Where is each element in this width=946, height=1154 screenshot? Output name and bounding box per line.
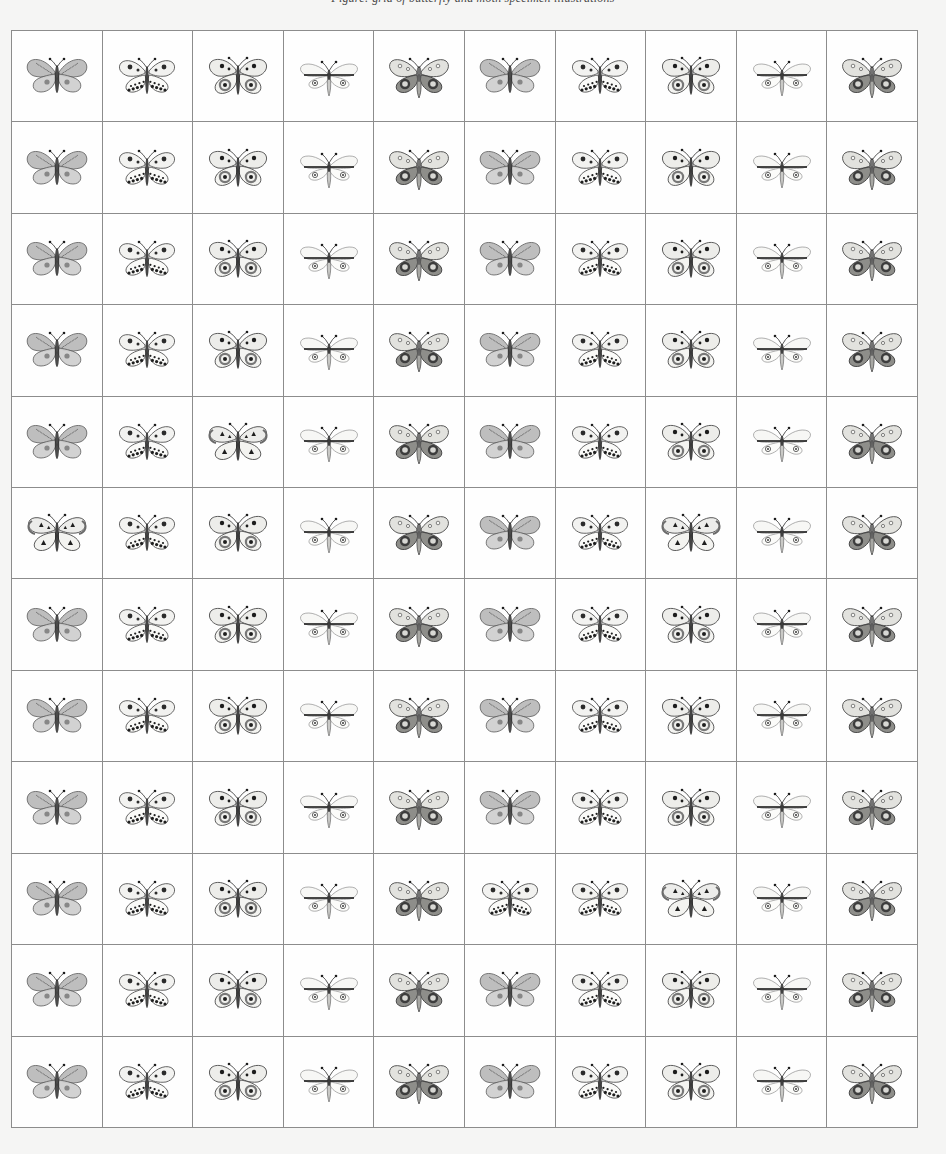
grey-banded-butterfly-icon	[20, 686, 94, 746]
specimen-cell	[193, 854, 284, 945]
pale-narrow-winged-moth-icon	[745, 595, 819, 655]
specimen-cell	[827, 1037, 918, 1128]
pale-narrow-winged-moth-icon	[745, 1052, 819, 1112]
pale-narrow-winged-moth-icon	[292, 1052, 366, 1112]
specimen-cell	[12, 671, 103, 762]
specimen-cell	[737, 762, 828, 853]
white-spotted-butterfly-icon	[110, 46, 184, 106]
ocellated-butterfly-icon	[654, 412, 728, 472]
grey-banded-butterfly-icon	[473, 229, 547, 289]
white-spotted-butterfly-icon	[110, 503, 184, 563]
specimen-cell	[556, 31, 647, 122]
specimen-cell	[103, 122, 194, 213]
white-spotted-butterfly-icon	[110, 320, 184, 380]
grey-banded-butterfly-icon	[20, 960, 94, 1020]
specimen-cell	[12, 854, 103, 945]
ocellated-butterfly-icon	[201, 686, 275, 746]
specimen-cell	[465, 122, 556, 213]
pale-narrow-winged-moth-icon	[745, 138, 819, 198]
specimen-cell	[465, 305, 556, 396]
specimen-cell	[556, 671, 647, 762]
specimen-cell	[646, 214, 737, 305]
ocellated-butterfly-icon	[201, 1052, 275, 1112]
pale-narrow-winged-moth-icon	[292, 46, 366, 106]
specimen-cell	[556, 579, 647, 670]
specimen-cell	[12, 945, 103, 1036]
grey-banded-butterfly-icon	[20, 412, 94, 472]
specimen-cell	[193, 1037, 284, 1128]
white-spotted-butterfly-icon	[563, 229, 637, 289]
specimen-cell	[12, 579, 103, 670]
specimen-cell	[465, 945, 556, 1036]
specimen-cell	[374, 214, 465, 305]
white-spotted-butterfly-icon	[110, 412, 184, 472]
pale-narrow-winged-moth-icon	[745, 229, 819, 289]
white-spotted-butterfly-icon	[110, 778, 184, 838]
specimen-cell	[284, 488, 375, 579]
specimen-cell	[465, 671, 556, 762]
specimen-cell	[465, 31, 556, 122]
ocellated-butterfly-icon	[201, 229, 275, 289]
white-spotted-butterfly-icon	[110, 869, 184, 929]
specimen-cell	[374, 579, 465, 670]
grey-banded-butterfly-icon	[473, 960, 547, 1020]
specimen-cell	[103, 762, 194, 853]
white-spotted-butterfly-icon	[110, 595, 184, 655]
specimen-cell	[103, 488, 194, 579]
pale-narrow-winged-moth-icon	[292, 503, 366, 563]
dark-spotted-moth-icon	[382, 869, 456, 929]
specimen-cell	[556, 854, 647, 945]
pale-narrow-winged-moth-icon	[292, 138, 366, 198]
ocellated-butterfly-icon	[201, 778, 275, 838]
grey-banded-butterfly-icon	[473, 1052, 547, 1112]
ocellated-butterfly-icon	[654, 229, 728, 289]
specimen-cell	[374, 854, 465, 945]
specimen-cell	[556, 945, 647, 1036]
dark-spotted-moth-icon	[382, 412, 456, 472]
specimen-cell	[103, 31, 194, 122]
dark-spotted-moth-icon	[835, 138, 909, 198]
specimen-cell	[737, 397, 828, 488]
specimen-cell	[646, 488, 737, 579]
specimen-cell	[103, 854, 194, 945]
specimen-cell	[374, 1037, 465, 1128]
white-spotted-butterfly-icon	[563, 138, 637, 198]
specimen-cell	[12, 31, 103, 122]
specimen-cell	[827, 671, 918, 762]
pale-narrow-winged-moth-icon	[292, 412, 366, 472]
pale-narrow-winged-moth-icon	[292, 229, 366, 289]
specimen-cell	[646, 945, 737, 1036]
specimen-cell	[646, 1037, 737, 1128]
triangle-marked-butterfly-icon	[20, 503, 94, 563]
specimen-cell	[556, 397, 647, 488]
ocellated-butterfly-icon	[201, 46, 275, 106]
grey-banded-butterfly-icon	[473, 778, 547, 838]
specimen-cell	[646, 579, 737, 670]
ocellated-butterfly-icon	[654, 1052, 728, 1112]
ocellated-butterfly-icon	[201, 960, 275, 1020]
specimen-cell	[374, 671, 465, 762]
specimen-cell	[103, 214, 194, 305]
specimen-cell	[12, 762, 103, 853]
specimen-cell	[193, 214, 284, 305]
specimen-cell	[556, 305, 647, 396]
ocellated-butterfly-icon	[654, 46, 728, 106]
specimen-cell	[737, 214, 828, 305]
specimen-cell	[556, 762, 647, 853]
dark-spotted-moth-icon	[382, 229, 456, 289]
specimen-cell	[12, 305, 103, 396]
white-spotted-butterfly-icon	[473, 869, 547, 929]
grey-banded-butterfly-icon	[20, 778, 94, 838]
pale-narrow-winged-moth-icon	[745, 503, 819, 563]
dark-spotted-moth-icon	[382, 686, 456, 746]
pale-narrow-winged-moth-icon	[745, 46, 819, 106]
dark-spotted-moth-icon	[835, 229, 909, 289]
specimen-cell	[193, 305, 284, 396]
specimen-cell	[465, 762, 556, 853]
pale-narrow-winged-moth-icon	[292, 869, 366, 929]
ocellated-butterfly-icon	[654, 778, 728, 838]
dark-spotted-moth-icon	[382, 778, 456, 838]
specimen-cell	[284, 31, 375, 122]
ocellated-butterfly-icon	[201, 320, 275, 380]
white-spotted-butterfly-icon	[563, 503, 637, 563]
